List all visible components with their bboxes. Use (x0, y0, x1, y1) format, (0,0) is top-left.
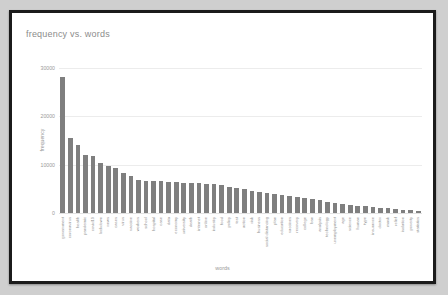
bar-slot: statistics (414, 59, 422, 214)
bar (189, 183, 194, 214)
x-tick-label: college (303, 217, 307, 230)
bar-slot: internet (195, 59, 203, 214)
x-tick-label: relief (393, 217, 397, 226)
y-axis-label: frequency (39, 129, 45, 152)
bar (272, 194, 277, 214)
bar (219, 185, 224, 214)
bar (197, 183, 202, 214)
x-tick-label: recovery (295, 217, 299, 233)
x-tick-label: education (280, 217, 284, 235)
bar-slot: science (346, 59, 354, 214)
bar (151, 181, 156, 214)
x-tick-label: online (204, 217, 208, 228)
bar (174, 182, 179, 214)
x-tick-label: vaccines (288, 217, 292, 233)
bar (287, 196, 292, 214)
bar-slot: mask (384, 59, 392, 214)
bar-slot: school (142, 59, 150, 214)
bar (166, 182, 171, 214)
x-tick-label: food (220, 217, 224, 225)
bar-slot: vaccine (127, 59, 135, 214)
x-tick-label: human (356, 217, 360, 230)
bar (227, 187, 232, 214)
bar-slot: hospital (150, 59, 158, 214)
bar (265, 193, 270, 214)
bar (76, 145, 81, 214)
bar (129, 176, 134, 214)
x-tick-label: university (182, 217, 186, 234)
x-tick-label: hospital (151, 217, 155, 231)
bar-slot: plan (271, 59, 279, 214)
bar (181, 183, 186, 214)
bar (280, 195, 285, 214)
bar-slot: type (362, 59, 370, 214)
x-tick-label: news (106, 217, 110, 227)
x-tick-label: age (341, 217, 345, 224)
x-tick-label: ban (310, 217, 314, 224)
bar (242, 189, 247, 214)
bar-slot: age (339, 59, 347, 214)
bar-slot: risk (248, 59, 256, 214)
x-tick-label: government (61, 217, 65, 239)
bar-slot: insurance (369, 59, 377, 214)
bar (295, 197, 300, 214)
x-tick-label: isolation (401, 217, 405, 232)
bar-slot: case (157, 59, 165, 214)
x-axis-label: words (12, 265, 433, 271)
x-tick-label: covid19 (91, 217, 95, 231)
screenshot-root: frequency vs. words frequency 0100002000… (0, 0, 448, 295)
bar-slot: university (180, 59, 188, 214)
bar-slot: cases (112, 59, 120, 214)
x-tick-label: school (144, 217, 148, 229)
y-tick-label: 30000 (41, 65, 55, 71)
y-tick-label: 10000 (41, 162, 55, 168)
bar (83, 155, 88, 214)
bar-slot: policy (225, 59, 233, 214)
bar-slot: action (241, 59, 249, 214)
bar (98, 163, 103, 214)
x-tick-label: industry (212, 217, 216, 231)
bar-slot: data (165, 59, 173, 214)
x-tick-label: science (348, 217, 352, 231)
bar-slot: poverty (407, 59, 415, 214)
bar-slot: online (203, 59, 211, 214)
bar-slot: food (218, 59, 226, 214)
x-tick-label: case (159, 217, 163, 226)
bar-slot: technology (324, 59, 332, 214)
x-tick-label: workers (136, 217, 140, 231)
bar-slot: college (301, 59, 309, 214)
x-tick-label: risk (250, 217, 254, 223)
x-tick-label: type (363, 217, 367, 225)
bar-slot: pandemic (82, 59, 90, 214)
x-axis-line (59, 213, 422, 214)
chart-title: frequency vs. words (26, 29, 110, 39)
x-tick-label: lockdown (99, 217, 103, 234)
x-tick-label: statistics (416, 217, 420, 233)
bar-slot: business (256, 59, 264, 214)
bar (113, 168, 118, 214)
bar-slot: human (354, 59, 362, 214)
x-tick-label: coronavirus (68, 217, 72, 238)
bar (310, 199, 315, 214)
x-tick-label: poverty (409, 217, 413, 230)
bar-slot: unemployment (331, 59, 339, 214)
x-tick-label: plan (272, 217, 276, 225)
bar (257, 192, 262, 214)
x-tick-label: data (167, 217, 171, 225)
bar-slot: doctor (377, 59, 385, 214)
bar-slot: covid19 (89, 59, 97, 214)
bar-slot: industry (210, 59, 218, 214)
x-tick-label: vaccine (129, 217, 133, 231)
x-tick-label: doctor (378, 217, 382, 228)
bar-slot: isolation (399, 59, 407, 214)
bar-slot: relief (392, 59, 400, 214)
bar (68, 138, 73, 214)
bar-slot: ban (309, 59, 317, 214)
bar-slot: virus (120, 59, 128, 214)
x-tick-label: technology (325, 217, 329, 237)
bar (302, 198, 307, 214)
x-tick-label: social distancing (265, 217, 269, 247)
bar (204, 184, 209, 214)
x-tick-label: analysis (318, 217, 322, 232)
x-tick-label: mask (386, 217, 390, 227)
